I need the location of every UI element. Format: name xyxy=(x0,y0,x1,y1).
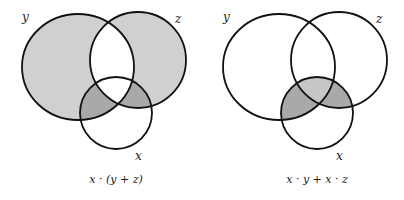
venn-diagram-left: y z x x · (y + z) xyxy=(21,10,186,186)
label-x: x xyxy=(336,149,343,163)
label-z: z xyxy=(174,12,182,26)
caption-left: x · (y + z) xyxy=(89,173,143,186)
caption-right: x · y + x · z xyxy=(286,173,348,186)
venn-figure: y z x x · (y + z) y z x x · y + x · z xyxy=(0,0,404,200)
venn-diagram-right: y z x x · y + x · z xyxy=(222,10,387,186)
label-y: y xyxy=(222,10,230,24)
label-x: x xyxy=(135,149,142,163)
label-z: z xyxy=(375,12,383,26)
label-y: y xyxy=(21,10,29,24)
